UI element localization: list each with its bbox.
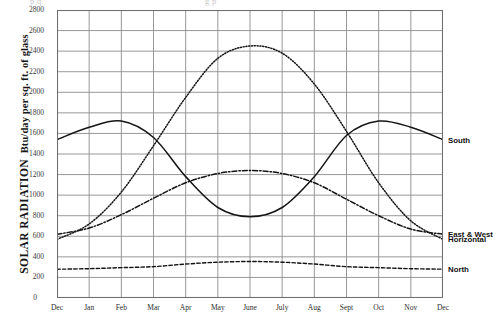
y-tick-label: 400 bbox=[0, 252, 37, 261]
y-tick-label: 2800 bbox=[0, 5, 37, 14]
y-tick-label: 2000 bbox=[0, 87, 37, 96]
series-label-east-west: East & West bbox=[448, 230, 493, 239]
series-label-north: North bbox=[448, 265, 469, 274]
y-tick-label: 600 bbox=[0, 231, 37, 240]
y-tick-label: 1000 bbox=[0, 190, 37, 199]
y-tick-label: 1600 bbox=[0, 128, 37, 137]
chart-svg bbox=[57, 10, 443, 298]
y-tick-label: 1200 bbox=[0, 170, 37, 179]
y-tick-label: 2400 bbox=[0, 46, 37, 55]
plot-area bbox=[57, 10, 443, 298]
y-tick-label: 2600 bbox=[0, 26, 37, 35]
series-label-south: South bbox=[448, 136, 470, 145]
y-tick-label: 2200 bbox=[0, 67, 37, 76]
y-tick-label: 800 bbox=[0, 211, 37, 220]
gridlines bbox=[57, 10, 443, 298]
y-tick-label: 1400 bbox=[0, 149, 37, 158]
y-tick-label: 0 bbox=[0, 293, 37, 302]
y-tick-label: 200 bbox=[0, 272, 37, 281]
x-tick-label: Dec bbox=[423, 303, 463, 312]
y-tick-label: 1800 bbox=[0, 108, 37, 117]
